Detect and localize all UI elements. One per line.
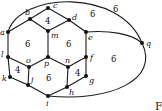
vertex-m bbox=[46, 29, 50, 33]
face-label: 6 bbox=[90, 9, 95, 19]
vertex-b bbox=[28, 17, 32, 21]
label-f: f bbox=[89, 53, 95, 62]
label-q: q bbox=[146, 39, 151, 48]
face-label: 6 bbox=[46, 73, 51, 83]
label-d: d bbox=[72, 13, 77, 22]
vertex-o bbox=[27, 65, 31, 69]
label-i: i bbox=[46, 99, 49, 108]
label-h: h bbox=[69, 88, 74, 97]
face-degree-labels: 4 6 6 4 6 4 6 6 6 bbox=[15, 4, 118, 83]
edge-i-h bbox=[48, 87, 67, 96]
edge-o-j bbox=[28, 67, 29, 85]
label-e: e bbox=[88, 33, 93, 42]
label-l: l bbox=[1, 50, 4, 59]
vertex-i bbox=[46, 94, 50, 98]
edge-d-m bbox=[48, 20, 69, 31]
face-label: 4 bbox=[75, 68, 80, 78]
face-label: 6 bbox=[66, 39, 71, 49]
label-p: p bbox=[44, 59, 49, 68]
face-label: 6 bbox=[25, 39, 30, 49]
vertex-n bbox=[66, 65, 70, 69]
planar-graph-diagram: a b c d e q m l o p n f k j h g i 4 6 6 … bbox=[0, 0, 162, 111]
edge-e-q-arc bbox=[86, 31, 142, 43]
label-k: k bbox=[2, 74, 7, 83]
vertex-f bbox=[84, 55, 88, 59]
vertex-l bbox=[6, 55, 10, 59]
edge-n-h bbox=[67, 67, 68, 87]
edge-j-i bbox=[28, 85, 48, 96]
label-a: a bbox=[0, 28, 5, 37]
vertex-q bbox=[140, 41, 144, 45]
vertex-a bbox=[6, 30, 10, 34]
vertex-j bbox=[26, 83, 30, 87]
label-m: m bbox=[51, 31, 59, 40]
label-j: j bbox=[29, 75, 34, 84]
vertex-labels: a b c d e q m l o p n f k j h g i bbox=[0, 1, 151, 108]
edge-l-k bbox=[8, 57, 10, 77]
face-label: 6 bbox=[111, 54, 116, 64]
face-label: 4 bbox=[45, 16, 50, 26]
face-label: 4 bbox=[15, 65, 20, 75]
label-n: n bbox=[65, 56, 70, 65]
label-b: b bbox=[25, 8, 30, 17]
caption-fragment: F bbox=[155, 100, 162, 111]
label-c: c bbox=[53, 1, 58, 10]
label-o: o bbox=[26, 56, 31, 65]
face-label: 6 bbox=[113, 4, 118, 14]
vertex-k bbox=[8, 75, 12, 79]
vertex-d bbox=[67, 18, 71, 22]
label-g: g bbox=[89, 76, 94, 85]
vertex-g bbox=[84, 74, 88, 78]
edge-c-d bbox=[48, 8, 69, 20]
edge-k-j bbox=[10, 77, 28, 85]
vertex-c bbox=[46, 6, 50, 10]
edge-n-f bbox=[68, 57, 86, 67]
